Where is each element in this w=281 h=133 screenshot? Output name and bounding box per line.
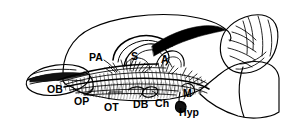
anatomy-label-s: S [131,51,138,62]
brain-sagittal-figure [0,0,281,133]
anatomy-label-pa: PA [89,52,103,63]
anatomy-label-ch: Ch [155,98,169,109]
anatomy-label-ot: OT [104,102,119,113]
anatomy-label-m: M [183,88,192,99]
anatomy-label-a: A [161,54,169,65]
anatomy-label-hyp: Hyp [179,107,199,118]
anatomy-label-db: DB [133,99,148,110]
anatomy-label-op: OP [74,96,89,107]
anatomy-label-ob: OB [47,84,63,95]
